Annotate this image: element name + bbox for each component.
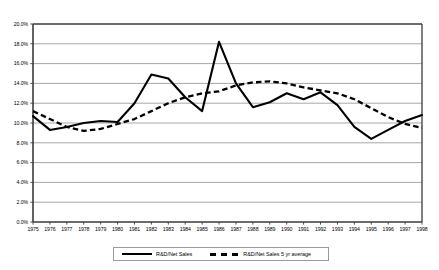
y-axis-tick-label: 14.0% xyxy=(2,80,28,86)
legend-label-rd-net-sales: R&D/Net Sales xyxy=(156,251,192,258)
series-line-rd-net-sales-5yr-average xyxy=(33,81,422,131)
legend-solid-line-icon xyxy=(122,250,152,258)
legend-dashed-line-icon xyxy=(209,250,239,258)
legend-item-rd-net-sales-5yr-average: R&D/Net Sales 5 yr average xyxy=(209,248,311,260)
y-axis-tick-label: 16.0% xyxy=(2,60,28,66)
y-axis-tick-label: 0.0% xyxy=(2,219,28,225)
legend-item-rd-net-sales: R&D/Net Sales xyxy=(122,248,192,260)
y-axis-tick-label: 2.0% xyxy=(2,199,28,205)
chart-legend: R&D/Net Sales R&D/Net Sales 5 yr average xyxy=(113,247,329,261)
series-line-rd-net-sales xyxy=(33,42,422,139)
chart-container: 20.0%18.0%16.0%14.0%12.0%10.0%8.0%6.0%4.… xyxy=(0,0,439,270)
y-axis-tick-label: 20.0% xyxy=(2,21,28,27)
y-axis-tick-label: 8.0% xyxy=(2,140,28,146)
legend-label-rd-net-sales-5yr-average: R&D/Net Sales 5 yr average xyxy=(243,251,311,258)
x-axis-tick-label: 1998 xyxy=(412,226,432,232)
y-axis-tick-label: 6.0% xyxy=(2,159,28,165)
y-axis-tick-label: 12.0% xyxy=(2,100,28,106)
y-axis-tick-label: 10.0% xyxy=(2,120,28,126)
y-axis-tick-label: 18.0% xyxy=(2,41,28,47)
y-axis-tick-label: 4.0% xyxy=(2,179,28,185)
